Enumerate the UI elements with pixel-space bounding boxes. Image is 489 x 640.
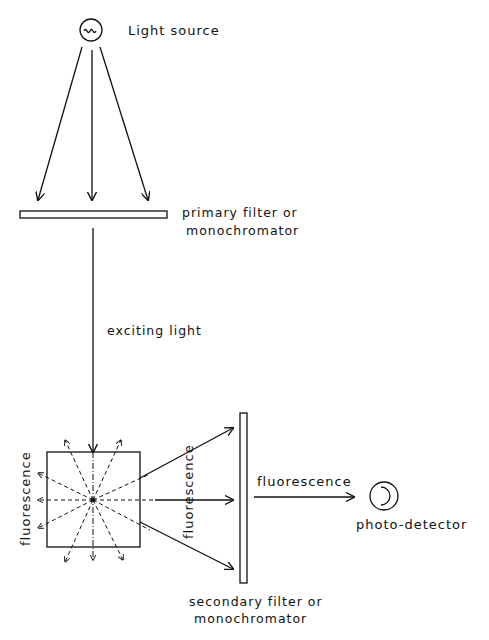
primary-filter-label-line2: monochromator [186,223,299,238]
secondary-filter [240,413,247,583]
fluorescence-label-right: fluorescence [257,474,352,489]
fluorescence-label-middle: fluorescence [181,444,196,539]
fluorescence-diagram: Light source primary filter or monochrom… [0,0,489,640]
incident-light-rays [38,47,148,200]
photo-detector-label: photo-detector [356,517,467,532]
primary-filter [20,211,167,218]
light-source-icon [80,19,102,41]
exciting-light-label: exciting light [107,323,202,338]
photo-detector-icon [370,482,398,510]
primary-filter-label-line1: primary filter or [182,205,298,220]
light-source-label: Light source [128,23,220,38]
fluorescence-emission-rays [38,440,155,562]
secondary-filter-label-line2: monochromator [194,611,307,626]
fluorescence-label-left: fluorescence [18,451,33,546]
secondary-filter-label-line1: secondary filter or [189,594,323,609]
